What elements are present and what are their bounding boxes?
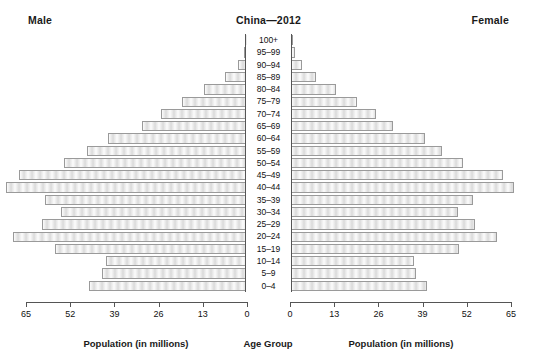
pyramid-row <box>0 71 246 83</box>
pyramid-row <box>0 34 246 46</box>
male-bars-panel <box>0 34 246 302</box>
male-x-tick-label: 26 <box>154 309 164 319</box>
chart-title: China—2012 <box>0 14 537 26</box>
age-group-row: 90–94 <box>246 59 291 71</box>
pyramid-row <box>0 145 246 157</box>
pyramid-row <box>291 132 537 144</box>
pyramid-row <box>0 132 246 144</box>
male-x-tick-label: 13 <box>198 309 208 319</box>
female-bar-15-19[interactable] <box>291 244 459 254</box>
female-bar-55-59[interactable] <box>291 146 442 156</box>
age-group-label: 65–69 <box>257 122 281 131</box>
female-bar-35-39[interactable] <box>291 195 473 205</box>
male-bar-45-49[interactable] <box>19 170 246 180</box>
male-bar-25-29[interactable] <box>42 219 246 229</box>
pyramid-row <box>291 46 537 58</box>
male-bar-20-24[interactable] <box>13 232 246 242</box>
pyramid-row <box>291 34 537 46</box>
male-x-tick <box>26 302 27 307</box>
male-bar-65-69[interactable] <box>142 121 246 131</box>
age-group-label: 70–74 <box>257 110 281 119</box>
female-bar-10-14[interactable] <box>291 256 414 266</box>
pyramid-row <box>0 255 246 267</box>
pyramid-row <box>291 71 537 83</box>
pyramid-row <box>291 267 537 279</box>
female-x-tick-label: 52 <box>462 309 472 319</box>
male-bar-5-9[interactable] <box>102 268 246 278</box>
female-bar-75-79[interactable] <box>291 97 357 107</box>
age-group-label: 10–14 <box>257 257 281 266</box>
female-bar-25-29[interactable] <box>291 219 475 229</box>
age-group-label: 45–49 <box>257 171 281 180</box>
female-bar-0-4[interactable] <box>291 281 427 291</box>
age-group-row: 5–9 <box>246 267 291 279</box>
pyramid-row <box>0 181 246 193</box>
male-bar-70-74[interactable] <box>161 109 246 119</box>
female-bar-70-74[interactable] <box>291 109 376 119</box>
male-bar-85-89[interactable] <box>225 72 246 82</box>
female-bar-65-69[interactable] <box>291 121 393 131</box>
male-x-tick-label: 52 <box>65 309 75 319</box>
age-group-label: 30–34 <box>257 208 281 217</box>
female-x-tick <box>423 302 424 307</box>
age-group-row: 15–19 <box>246 243 291 255</box>
age-group-label: 95–99 <box>257 48 281 57</box>
female-bars-panel <box>291 34 537 302</box>
male-bar-0-4[interactable] <box>89 281 246 291</box>
male-bar-75-79[interactable] <box>182 97 246 107</box>
pyramid-row <box>291 169 537 181</box>
female-bar-90-94[interactable] <box>291 60 302 70</box>
pyramid-row <box>291 145 537 157</box>
male-bar-40-44[interactable] <box>6 182 246 192</box>
female-x-tick <box>378 302 379 307</box>
population-pyramid-chart: Male China—2012 Female 0–45–910–1415–192… <box>0 0 537 361</box>
pyramid-row <box>0 169 246 181</box>
pyramid-row <box>0 280 246 292</box>
male-axis-caption: Population (in millions) <box>83 338 188 349</box>
age-group-label: 0–4 <box>261 282 275 291</box>
pyramid-row <box>0 243 246 255</box>
male-x-tick <box>159 302 160 307</box>
female-bar-20-24[interactable] <box>291 232 497 242</box>
pyramid-row <box>291 96 537 108</box>
female-bar-5-9[interactable] <box>291 268 416 278</box>
pyramid-row <box>291 157 537 169</box>
male-bar-30-34[interactable] <box>61 207 246 217</box>
pyramid-row <box>0 218 246 230</box>
pyramid-row <box>291 243 537 255</box>
male-bar-80-84[interactable] <box>204 84 246 94</box>
pyramid-row <box>0 108 246 120</box>
age-group-row: 30–34 <box>246 206 291 218</box>
female-axis-line <box>290 302 511 303</box>
male-x-tick-label: 65 <box>21 309 31 319</box>
pyramid-row <box>291 181 537 193</box>
age-group-row: 55–59 <box>246 145 291 157</box>
female-bar-30-34[interactable] <box>291 207 458 217</box>
female-bar-60-64[interactable] <box>291 133 425 143</box>
male-bar-15-19[interactable] <box>55 244 246 254</box>
female-bar-85-89[interactable] <box>291 72 316 82</box>
age-group-label: 85–89 <box>257 73 281 82</box>
male-bar-55-59[interactable] <box>87 146 246 156</box>
male-bar-60-64[interactable] <box>108 133 246 143</box>
female-x-tick-label: 26 <box>373 309 383 319</box>
plot-area: 0–45–910–1415–1920–2425–2930–3435–3940–4… <box>0 34 537 302</box>
male-x-tick <box>70 302 71 307</box>
pyramid-row <box>0 206 246 218</box>
pyramid-row <box>291 194 537 206</box>
age-group-label: 80–84 <box>257 85 281 94</box>
age-group-row: 60–64 <box>246 132 291 144</box>
female-bar-40-44[interactable] <box>291 182 514 192</box>
pyramid-row <box>291 206 537 218</box>
female-bar-50-54[interactable] <box>291 158 463 168</box>
male-bar-50-54[interactable] <box>64 158 246 168</box>
female-x-tick <box>334 302 335 307</box>
age-group-row: 50–54 <box>246 157 291 169</box>
age-group-label: 5–9 <box>261 269 275 278</box>
female-bar-80-84[interactable] <box>291 84 336 94</box>
female-bar-45-49[interactable] <box>291 170 503 180</box>
age-group-label: 50–54 <box>257 159 281 168</box>
male-bar-10-14[interactable] <box>106 256 246 266</box>
male-bar-35-39[interactable] <box>45 195 246 205</box>
age-group-label: 15–19 <box>257 245 281 254</box>
